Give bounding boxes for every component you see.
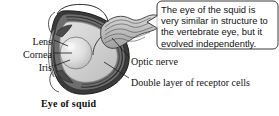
squid-eye-figure: Lens Cornea Iris Optic nerve Double laye… — [0, 0, 279, 116]
label-iris: Iris — [39, 62, 52, 73]
callout-text: The eye of the squid is very similar in … — [161, 4, 275, 49]
label-cornea: Cornea — [23, 49, 52, 60]
figure-caption: Eye of squid — [41, 98, 96, 109]
lens-highlight — [65, 42, 75, 50]
label-receptor-cells: Double layer of receptor cells — [131, 77, 250, 88]
label-optic-nerve: Optic nerve — [131, 56, 178, 67]
callout-box: The eye of the squid is very similar in … — [157, 1, 279, 49]
label-lens: Lens — [33, 36, 52, 47]
